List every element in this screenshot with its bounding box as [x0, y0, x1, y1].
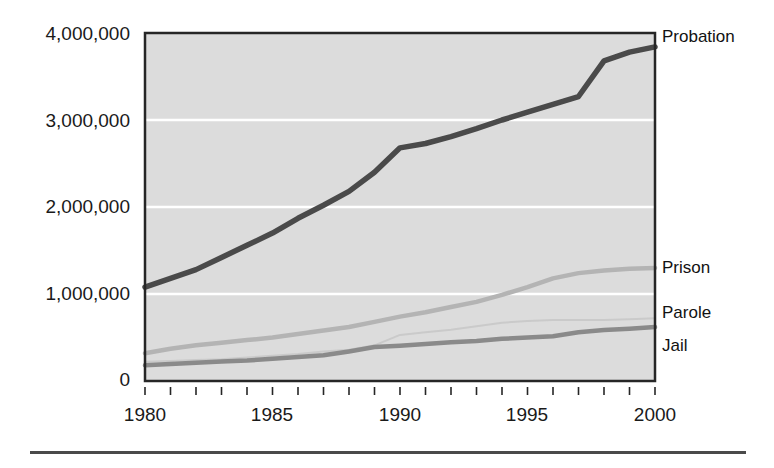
plot-area	[0, 0, 774, 468]
x-axis-ticks-group	[145, 387, 655, 395]
chart-figure: 4,000,000 3,000,000 2,000,000 1,000,000 …	[0, 0, 774, 468]
footer-rule	[30, 451, 746, 454]
